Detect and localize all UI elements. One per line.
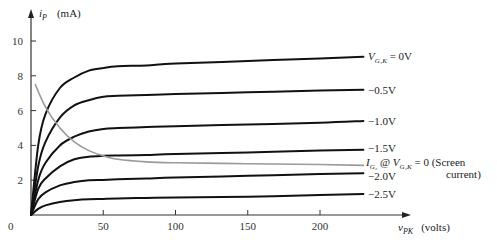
plate-characteristics-chart: 246810501001502000iP(mA)vPK(volts) VG₁K … bbox=[0, 0, 497, 245]
x-axis-arrow-icon bbox=[402, 212, 411, 218]
curve-label: −1.5V bbox=[368, 142, 396, 154]
curve-label: −0.5V bbox=[368, 84, 396, 96]
curve-label: −1.0V bbox=[368, 115, 396, 127]
plate-current-curve bbox=[31, 194, 363, 215]
y-tick-label: 4 bbox=[18, 139, 24, 151]
y-tick-label: 6 bbox=[18, 105, 24, 117]
plate-current-curve bbox=[31, 57, 363, 215]
curve-labels: VG₁K = 0V−0.5V−1.0V−1.5V−2.0V−2.5VIG₂ @ … bbox=[365, 50, 481, 200]
origin-label: 0 bbox=[8, 220, 14, 232]
curve-label: VG₁K = 0V bbox=[368, 50, 412, 65]
plate-current-curve bbox=[31, 90, 363, 215]
x-tick-label: 100 bbox=[167, 220, 184, 232]
curve-label: −2.5V bbox=[368, 188, 396, 200]
plate-current-curve bbox=[31, 150, 363, 215]
x-tick-label: 150 bbox=[240, 220, 257, 232]
y-tick-label: 8 bbox=[18, 70, 24, 82]
y-axis-title: iP(mA) bbox=[39, 7, 81, 22]
x-tick-label: 200 bbox=[312, 220, 329, 232]
y-axis-arrow-icon bbox=[28, 9, 34, 18]
y-tick-label: 10 bbox=[12, 35, 24, 47]
curve-label: −2.0V bbox=[368, 170, 396, 182]
y-tick-label: 2 bbox=[18, 174, 24, 186]
x-tick-label: 50 bbox=[98, 220, 110, 232]
plate-current-curve bbox=[31, 173, 363, 215]
screen-current-label-cont: current) bbox=[446, 168, 481, 181]
curves bbox=[31, 57, 363, 215]
plate-current-curve bbox=[31, 121, 363, 215]
x-axis-title: vPK(volts) bbox=[398, 221, 450, 236]
